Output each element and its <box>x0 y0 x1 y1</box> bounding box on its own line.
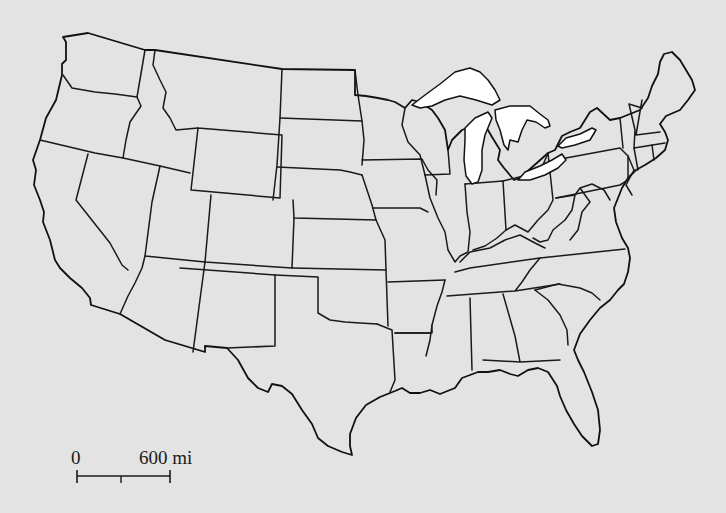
state-borders <box>40 50 665 392</box>
map-canvas <box>0 0 726 513</box>
lake-michigan <box>464 112 492 184</box>
scale-end-label: 600 mi <box>139 448 192 467</box>
lake-superior <box>412 68 500 108</box>
lake-huron <box>495 106 550 150</box>
scale-start-label: 0 <box>71 448 81 467</box>
us-outline-map: 0 600 mi <box>0 0 726 513</box>
lake-ontario <box>558 128 596 148</box>
